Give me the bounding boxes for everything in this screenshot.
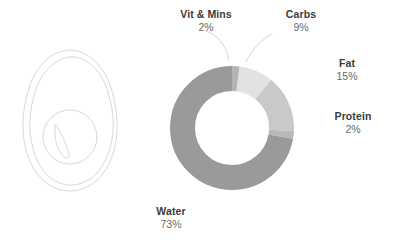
slice-label-protein-value: 2% bbox=[316, 123, 390, 135]
slice-label-carbs: Carbs 9% bbox=[258, 8, 344, 34]
slice-label-water: Water 73% bbox=[128, 205, 214, 231]
slice-label-protein-name: Protein bbox=[316, 110, 390, 122]
slice-label-vit-mins-value: 2% bbox=[150, 21, 262, 33]
slice-label-water-value: 73% bbox=[128, 218, 214, 230]
leader-line-carbs bbox=[246, 34, 272, 62]
slice-label-water-name: Water bbox=[128, 205, 214, 217]
slice-label-carbs-name: Carbs bbox=[258, 8, 344, 20]
slice-label-vit-mins: Vit & Mins 2% bbox=[150, 8, 262, 34]
leader-line-vit-mins bbox=[206, 31, 229, 60]
slice-label-fat: Fat 15% bbox=[316, 57, 378, 83]
slice-label-carbs-value: 9% bbox=[258, 21, 344, 33]
slice-label-vit-mins-name: Vit & Mins bbox=[150, 8, 262, 20]
slice-label-fat-value: 15% bbox=[316, 70, 378, 82]
donut-slice-group bbox=[183, 79, 282, 178]
infographic-canvas: Vit & Mins 2% Carbs 9% Fat 15% Protein 2… bbox=[0, 0, 396, 249]
slice-label-protein: Protein 2% bbox=[316, 110, 390, 136]
slice-label-fat-name: Fat bbox=[316, 57, 378, 69]
